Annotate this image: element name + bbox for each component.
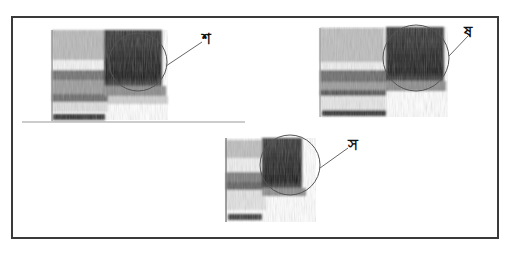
label-panel-1: শ [202,32,211,47]
spectrogram-panel-2 [320,25,468,117]
spectrogram-panel-1 [22,30,245,122]
spectrogram-figure [0,0,512,254]
label-panel-3: স [348,138,358,153]
label-panel-2: ষ [464,25,472,40]
spectrogram-panel-3 [226,135,348,222]
